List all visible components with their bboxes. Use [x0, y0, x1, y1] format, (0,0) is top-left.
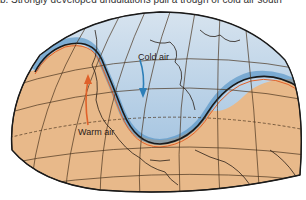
warm-air-label: Warm air: [78, 127, 114, 137]
globe-diagram: Cold air Warm air: [0, 0, 306, 200]
cold-air-label: Cold air: [138, 52, 169, 62]
